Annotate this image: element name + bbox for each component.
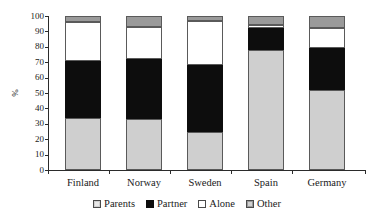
legend-item-parents: Parents [93,198,135,210]
y-axis-tick-label: 80 [20,42,44,51]
legend-label-other: Other [257,198,281,210]
y-axis-tick-label: 40 [20,104,44,113]
x-axis-label-sweden: Sweden [170,176,240,189]
bar-segment-alone [187,21,223,66]
y-axis-tick-label: 30 [20,119,44,128]
plot-area [48,16,364,170]
y-axis-tick-labels: 100 90 80 70 60 50 40 30 20 10 0 [20,16,44,171]
legend-swatch-alone-icon [198,200,206,208]
bar-stack [65,16,101,170]
bar-segment-parents [65,118,101,170]
x-axis-tick-mark [292,170,293,174]
y-axis-tick-label: 70 [20,58,44,67]
bar-segment-other [248,16,284,25]
x-axis-tick-mark [231,170,232,174]
x-axis-tick-mark [48,170,49,174]
legend-swatch-other-icon [246,200,254,208]
bar-stack [126,16,162,170]
legend-item-other: Other [246,198,281,210]
bar-segment-parents [248,50,284,170]
bar-stack [187,16,223,170]
bar-segment-alone [309,28,345,48]
x-axis-label-finland: Finland [48,176,118,189]
legend-label-alone: Alone [209,198,235,210]
y-axis-title: % [10,82,20,104]
bar-segment-parents [187,132,223,171]
x-axis-line [48,170,366,171]
stacked-bar-chart: % 100 90 80 70 60 50 40 30 20 10 0 [0,0,374,218]
bar-segment-alone [65,22,101,61]
x-axis-label-spain: Spain [231,176,301,189]
x-axis-tick-mark [170,170,171,174]
bar-segment-alone [126,27,162,59]
x-axis-tick-mark [365,170,366,174]
legend-item-alone: Alone [198,198,235,210]
y-axis-tick-label: 20 [20,135,44,144]
y-axis-tick-label: 10 [20,150,44,159]
bar-stack [248,16,284,170]
legend-label-partner: Partner [157,198,187,210]
legend-label-parents: Parents [104,198,135,210]
bar-segment-partner [65,61,101,118]
x-axis-tick-mark [109,170,110,174]
bar-segment-partner [126,59,162,119]
bar-segment-partner [309,48,345,90]
y-axis-tick-label: 50 [20,89,44,98]
chart-legend: Parents Partner Alone Other [0,198,374,210]
bar-stack [309,16,345,170]
x-axis-label-germany: Germany [292,176,362,189]
y-axis-tick-label: 100 [20,12,44,21]
bar-segment-other [126,16,162,27]
y-axis-tick-label: 60 [20,73,44,82]
bar-segment-parents [126,119,162,170]
bar-segment-other [309,16,345,28]
legend-item-partner: Partner [146,198,187,210]
bar-segment-partner [248,28,284,50]
y-axis-tick-label: 0 [20,166,44,175]
bar-segment-partner [187,65,223,131]
bar-segment-parents [309,90,345,170]
legend-swatch-partner-icon [146,200,154,208]
legend-swatch-parents-icon [93,200,101,208]
x-axis-label-norway: Norway [109,176,179,189]
y-axis-tick-label: 90 [20,27,44,36]
